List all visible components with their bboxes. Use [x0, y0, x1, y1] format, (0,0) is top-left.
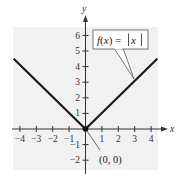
- svg-text:4: 4: [75, 62, 80, 72]
- svg-text:2: 2: [116, 134, 121, 144]
- svg-text:1: 1: [100, 134, 105, 144]
- svg-text:−2: −2: [70, 155, 80, 165]
- svg-text:−2: −2: [48, 134, 58, 144]
- svg-text:f(x) =: f(x) =: [97, 34, 121, 47]
- origin-point: [83, 126, 89, 132]
- svg-text:−3: −3: [31, 134, 41, 144]
- x-axis-label: x: [169, 124, 175, 134]
- svg-text:−1: −1: [70, 140, 80, 150]
- svg-text:−4: −4: [15, 134, 25, 144]
- abs-value-graph: x y −4 −3 −2 −1 1 2 3 4 6 5 4 3: [0, 0, 178, 177]
- svg-text:1: 1: [75, 108, 80, 118]
- function-label-body: x: [130, 34, 136, 46]
- origin-label: (0, 0): [99, 154, 122, 166]
- svg-text:3: 3: [75, 77, 80, 87]
- svg-text:5: 5: [75, 46, 80, 56]
- y-axis-label: y: [81, 4, 87, 14]
- x-axis-arrow-icon: [161, 127, 168, 132]
- svg-text:2: 2: [75, 93, 80, 103]
- svg-text:4: 4: [149, 134, 154, 144]
- svg-text:3: 3: [132, 134, 137, 144]
- svg-text:6: 6: [75, 31, 80, 41]
- y-axis-arrow-icon: [83, 15, 88, 22]
